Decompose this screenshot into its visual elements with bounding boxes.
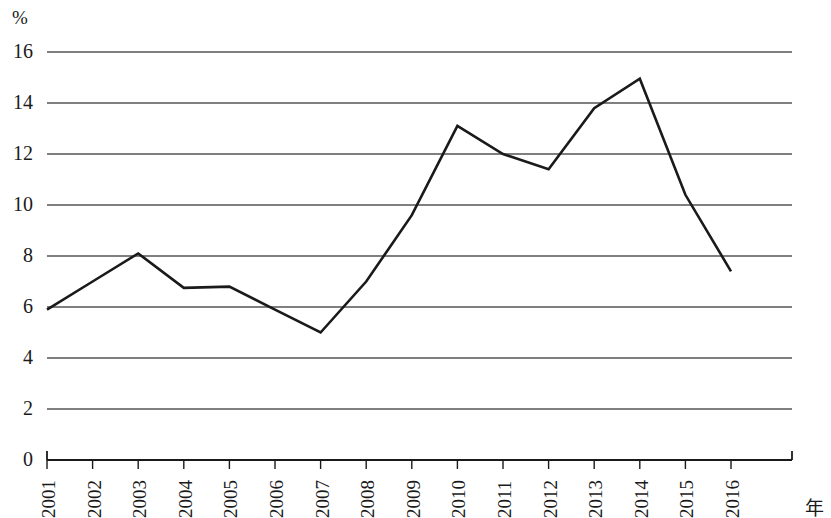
y-tick-label: 8 — [23, 245, 33, 265]
x-tick-label: 2005 — [221, 480, 240, 518]
x-tick-label: 2014 — [632, 480, 651, 518]
y-tick-label: 0 — [23, 449, 33, 469]
y-tick-label: 10 — [13, 194, 33, 214]
y-tick-label: 2 — [23, 398, 33, 418]
x-axis-unit-label: 年 — [805, 499, 824, 518]
y-tick-label: 16 — [13, 41, 33, 61]
x-tick-label: 2009 — [404, 480, 423, 518]
y-axis-unit-label: % — [12, 8, 28, 27]
x-tick-label: 2002 — [85, 480, 104, 518]
x-tick-label: 2004 — [176, 480, 195, 518]
x-tick-label: 2007 — [313, 480, 332, 518]
x-tick-label: 2013 — [586, 480, 605, 518]
y-tick-label: 4 — [23, 347, 33, 367]
x-tick-label: 2016 — [723, 480, 742, 518]
y-tick-label: 6 — [23, 296, 33, 316]
y-tick-label: 12 — [13, 143, 33, 163]
gridline-group — [47, 52, 792, 409]
axis-group — [47, 451, 792, 460]
x-tick-label: 2006 — [267, 480, 286, 518]
x-tick-label: 2015 — [677, 480, 696, 518]
y-tick-label: 14 — [13, 92, 33, 112]
line-chart: % 0246810121416 200120022003200420052006… — [0, 0, 831, 518]
chart-canvas — [0, 0, 831, 518]
x-tick-label: 2003 — [130, 480, 149, 518]
x-tick-label: 2008 — [358, 480, 377, 518]
x-tick-label: 2012 — [541, 480, 560, 518]
x-tick-label: 2010 — [449, 480, 468, 518]
x-tick-label: 2001 — [39, 480, 58, 518]
x-tick-label: 2011 — [495, 481, 514, 518]
x-tick-group — [47, 460, 731, 469]
